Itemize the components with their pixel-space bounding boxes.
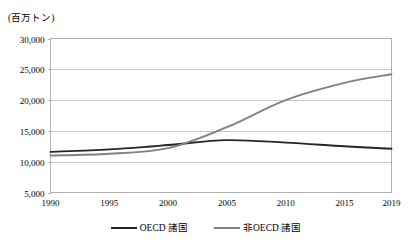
- y-axis-tick-label: 25,000: [20, 65, 45, 75]
- x-axis-tick-label: 2010: [277, 198, 296, 208]
- legend-item[interactable]: OECD 諸国: [111, 222, 188, 234]
- data-series-group: [51, 74, 392, 155]
- x-axis-tick-label: 2019: [383, 198, 402, 208]
- y-axis-tick-label: 10,000: [20, 158, 45, 168]
- series-line: [51, 74, 392, 155]
- x-axis-tick-label: 2000: [159, 198, 178, 208]
- series-line: [51, 140, 392, 152]
- y-axis-tick-labels: 30,00025,00020,00015,00010,0005,000: [20, 35, 45, 199]
- y-axis-tick-label: 30,000: [20, 35, 45, 45]
- x-axis-tick-label: 1995: [100, 198, 119, 208]
- legend-label: 非OECD 諸国: [243, 222, 301, 234]
- x-axis-tick-label: 1990: [42, 198, 61, 208]
- legend-label: OECD 諸国: [140, 222, 188, 234]
- x-axis-tick-label: 2015: [335, 198, 354, 208]
- line-chart: (百万トン) 30,00025,00020,00015,00010,0005,0…: [0, 0, 412, 245]
- chart-legend: OECD 諸国非OECD 諸国: [0, 222, 412, 234]
- x-axis-tick-label: 2005: [218, 198, 237, 208]
- y-axis-tick-label: 20,000: [20, 96, 45, 106]
- x-axis-tick-labels: 1990199520002005201020152019: [42, 198, 402, 208]
- plot-area: 30,00025,00020,00015,00010,0005,000 1990…: [0, 0, 412, 245]
- y-axis-tick-label: 15,000: [20, 127, 45, 137]
- plot-border: [51, 39, 392, 193]
- legend-item[interactable]: 非OECD 諸国: [214, 222, 301, 234]
- legend-line-swatch: [214, 227, 240, 229]
- legend-line-swatch: [111, 227, 137, 229]
